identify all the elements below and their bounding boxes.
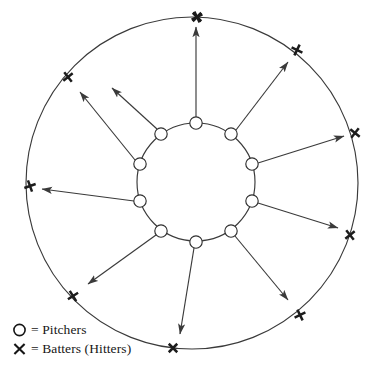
arrow-group: [42, 27, 344, 334]
pitcher-node: [225, 128, 237, 140]
pitcher-node: [190, 117, 202, 129]
arrow-pitcher-to-batter: [258, 136, 344, 163]
arrow-pitcher-to-batter: [42, 189, 134, 201]
legend: = Pitchers = Batters (Hitters): [11, 320, 191, 358]
pitcher-node: [190, 236, 202, 248]
pitcher-node: [155, 128, 167, 140]
arrow-pitcher-to-batter: [258, 203, 338, 228]
batter-mark: [345, 230, 354, 239]
rotation-diagram: [0, 0, 371, 371]
batter-mark: [350, 128, 359, 137]
pitcher-node: [134, 158, 146, 170]
batter-x-glyph: [345, 230, 354, 239]
circle-icon: [11, 321, 28, 338]
arrow-pitcher-to-batter: [235, 236, 288, 300]
legend-item-pitchers: = Pitchers: [11, 320, 191, 339]
pitchers-ring-circle: [137, 123, 255, 241]
pitcher-node: [155, 225, 167, 237]
diagram-canvas: = Pitchers = Batters (Hitters): [0, 0, 371, 371]
arrow-pitcher-to-batter: [236, 62, 288, 130]
pitcher-node: [225, 225, 237, 237]
pitchers-ring-outline: [137, 123, 255, 241]
legend-item-batters: = Batters (Hitters): [11, 339, 191, 358]
arrow-pitcher-to-batter: [112, 88, 157, 129]
pitcher-node: [246, 158, 258, 170]
batter-mark: [295, 310, 306, 321]
arrow-pitcher-to-batter: [88, 235, 156, 284]
legend-label-batters: = Batters (Hitters): [31, 341, 131, 357]
batter-x-glyph: [295, 310, 306, 321]
pitcher-node-group: [134, 117, 258, 248]
pitcher-node: [246, 195, 258, 207]
pitcher-node: [134, 195, 146, 207]
batter-x-glyph: [350, 128, 359, 137]
x-mark-icon: [11, 340, 28, 357]
legend-label-pitchers: = Pitchers: [31, 322, 86, 338]
